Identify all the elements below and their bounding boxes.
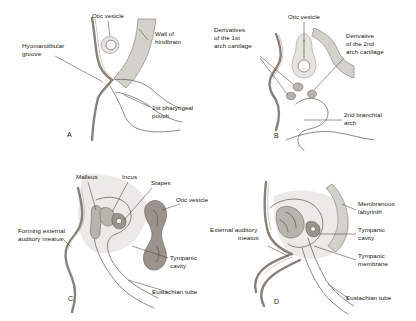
label-stapes: Stapes <box>151 179 171 186</box>
panel-d: Membranous labyrinth External auditory m… <box>208 160 416 321</box>
label-first-pharyngeal-pouch-line1: 1st pharyngeal <box>152 104 193 111</box>
label-membranous-labyrinth-line2: labyrinth <box>358 208 382 215</box>
label-malleus: Malleus <box>76 173 98 180</box>
derivative-1st-arch-blob-upper <box>293 83 303 91</box>
label-forming-meatus-line1: Forming external <box>18 227 65 234</box>
second-branchial-arch-shape <box>296 98 328 150</box>
otic-vesicle-lumen <box>106 40 116 50</box>
label-membranous-labyrinth-line1: Membranous <box>358 200 395 207</box>
label-otic-vesicle: Otic vesicle <box>288 13 321 20</box>
panel-c: Malleus Incus Stapes Otic vesicle Formin… <box>0 160 208 321</box>
label-tympanic-membrane-line1: Tympanic <box>358 252 385 259</box>
ear-development-figure: Otic vesicle Wall of hindbrain Hyomandib… <box>0 0 416 321</box>
panel-b: Otic vesicle Derivatives of the 1st arch… <box>208 0 416 160</box>
label-first-pharyngeal-pouch-line2: pouch <box>152 112 170 119</box>
otic-vesicle-shape <box>143 200 166 270</box>
label-forming-meatus-line2: auditory meatus <box>18 235 63 242</box>
stapes-foramen-d <box>311 227 316 232</box>
label-derivative-2nd-line2: of the 2nd <box>346 40 375 47</box>
label-wall-of-hindbrain-line1: Wall of <box>155 30 174 37</box>
otic-vesicle-leader <box>108 21 110 36</box>
label-wall-of-hindbrain-line2: hindbrain <box>155 38 181 45</box>
panel-letter-b: B <box>274 132 279 139</box>
derivative-2nd-arch-leader <box>314 58 344 90</box>
label-derivatives-1st-line2: of the 1st <box>214 34 240 41</box>
otic-vesicle-lumen <box>298 60 310 72</box>
first-pharyngeal-pouch-leader <box>124 95 150 107</box>
label-derivatives-1st-line1: Derivatives <box>214 26 245 33</box>
label-tympanic-cavity-line1: Tympanic <box>170 254 197 261</box>
label-eustachian-tube: Eustachian tube <box>346 294 392 301</box>
label-tympanic-cavity-line2: cavity <box>170 262 187 269</box>
label-tympanic-cavity-line2: cavity <box>358 234 375 241</box>
label-derivative-2nd-line1: Derivative <box>346 32 375 39</box>
panel-letter-c: C <box>68 295 73 302</box>
derivative-2nd-arch-blob <box>308 90 317 98</box>
hyomandibular-groove-leader <box>55 56 103 82</box>
body-contour <box>269 34 280 130</box>
label-second-branchial-arch-line1: 2nd branchial <box>344 111 382 118</box>
label-otic-vesicle: Otic vesicle <box>92 12 125 19</box>
panel-letter-a: A <box>67 131 72 138</box>
wall-of-hindbrain-shape <box>114 19 156 88</box>
label-second-branchial-arch-line2: arch <box>344 119 357 126</box>
label-derivative-2nd-line3: arch cartilage <box>346 48 384 55</box>
panel-letter-d: D <box>274 298 279 305</box>
label-eustachian-tube: Eustachian tube <box>152 288 198 295</box>
label-derivatives-1st-line3: arch cartilage <box>214 42 252 49</box>
eustachian-tube-leader <box>328 284 348 298</box>
label-hyomandibular-groove-line2: groove <box>22 50 42 57</box>
label-external-auditory-meatus-line1: External auditory <box>210 226 258 233</box>
derivative-1st-arch-blob-lower <box>287 92 296 99</box>
body-contour-head-inner <box>268 183 271 230</box>
label-hyomandibular-groove-line1: Hyomandibular <box>22 42 64 49</box>
label-external-auditory-meatus-line2: meatus <box>238 234 259 241</box>
label-tympanic-membrane-line2: membrane <box>358 260 388 267</box>
panel-a: Otic vesicle Wall of hindbrain Hyomandib… <box>0 0 208 160</box>
label-otic-vesicle: Otic vesicle <box>176 196 208 203</box>
label-incus: Incus <box>122 173 137 180</box>
label-tympanic-cavity-line1: Tympanic <box>358 226 385 233</box>
stapes-foramen <box>116 218 121 223</box>
